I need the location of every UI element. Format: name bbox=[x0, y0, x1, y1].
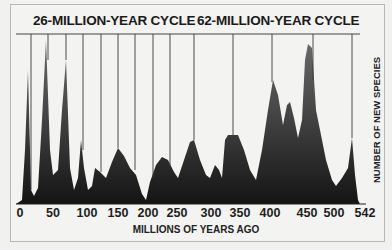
x-tick: 500 bbox=[324, 206, 345, 220]
x-tick: 542 bbox=[355, 206, 376, 220]
x-tick: 450 bbox=[297, 206, 318, 220]
x-tick: 300 bbox=[201, 206, 222, 220]
x-tick: 50 bbox=[46, 206, 60, 220]
x-tick: 200 bbox=[138, 206, 159, 220]
x-tick: 100 bbox=[77, 206, 98, 220]
x-tick: 250 bbox=[167, 206, 188, 220]
x-tick: 400 bbox=[260, 206, 281, 220]
y-axis-label: NUMBER OF NEW SPECIES bbox=[371, 57, 382, 183]
species-area bbox=[16, 40, 360, 204]
x-tick: 350 bbox=[230, 206, 251, 220]
x-tick: 150 bbox=[108, 206, 129, 220]
x-axis-label: MILLIONS OF YEARS AGO bbox=[0, 224, 392, 235]
x-tick: 0 bbox=[17, 206, 24, 220]
